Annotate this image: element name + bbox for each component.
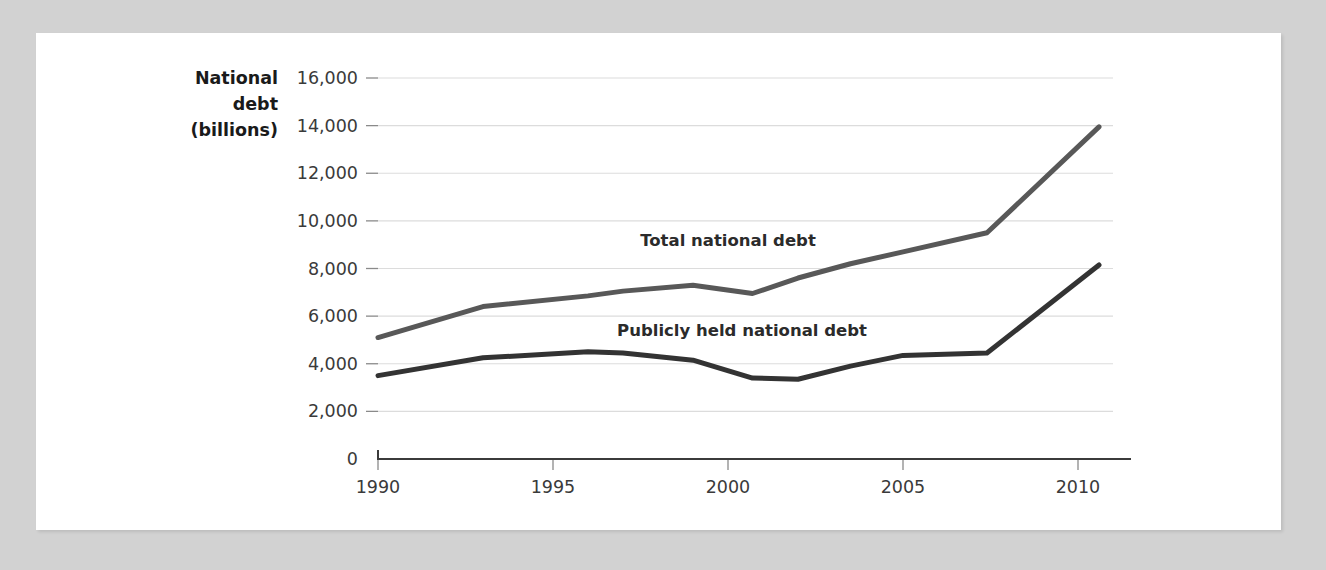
series-label: Publicly held national debt [617,321,867,340]
x-tick-labels-group: 19901995200020052010 [356,477,1101,497]
y-tick-labels-group: 02,0004,0006,0008,00010,00012,00014,0001… [297,68,358,469]
x-tick-label: 1990 [356,477,401,497]
chart-card: 02,0004,0006,0008,00010,00012,00014,0001… [36,33,1281,530]
screenshot-root: 02,0004,0006,0008,00010,00012,00014,0001… [0,0,1326,570]
y-tick-label: 4,000 [308,354,358,374]
y-axis-title: Nationaldebt(billions) [191,68,278,140]
chart-svg: 02,0004,0006,0008,00010,00012,00014,0001… [36,33,1281,530]
series-label: Total national debt [640,231,816,250]
y-tick-label: 16,000 [297,68,358,88]
x-tick-label: 2000 [706,477,751,497]
y-tick-label: 8,000 [308,259,358,279]
x-tick-label: 1995 [531,477,576,497]
y-axis-title-line: National [195,68,278,88]
x-tick-label: 2010 [1056,477,1101,497]
series-annotations-group: Total national debtPublicly held nationa… [617,231,867,340]
y-tick-label: 6,000 [308,306,358,326]
x-tick-label: 2005 [881,477,926,497]
y-tick-label: 14,000 [297,116,358,136]
x-axis-line [378,450,1131,459]
y-axis-title-line: debt [233,94,278,114]
y-axis-title-line: (billions) [191,120,278,140]
national-debt-line-chart: 02,0004,0006,0008,00010,00012,00014,0001… [36,33,1281,530]
y-tick-label: 12,000 [297,163,358,183]
series-group [378,127,1099,379]
axis-line-group [378,450,1131,459]
y-tick-label: 10,000 [297,211,358,231]
y-tick-label: 0 [347,449,358,469]
y-tick-label: 2,000 [308,401,358,421]
